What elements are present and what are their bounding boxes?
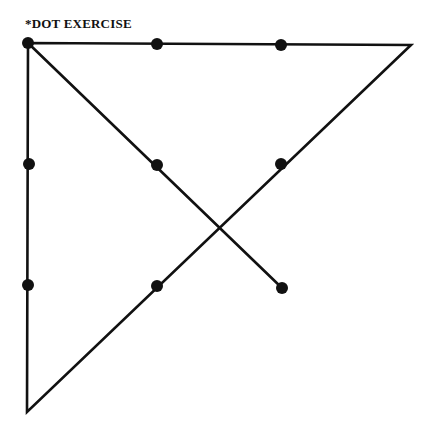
dot-9 (276, 282, 288, 294)
dot-2 (151, 38, 163, 50)
dot-5 (151, 159, 163, 171)
dot-8 (151, 280, 163, 292)
dot-exercise-diagram (0, 0, 434, 433)
dot-1 (22, 37, 34, 49)
dot-3 (275, 39, 287, 51)
four-line-path (27, 43, 411, 412)
dot-6 (275, 158, 287, 170)
connecting-lines (27, 43, 411, 412)
dot-4 (23, 158, 35, 170)
dot-7 (22, 279, 34, 291)
